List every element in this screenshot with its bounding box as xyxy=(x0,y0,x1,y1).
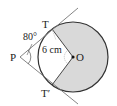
center-point-O xyxy=(71,55,74,58)
tangent-diagram: P T T′ O 80° 6 cm xyxy=(0,0,117,106)
angle-arc-O xyxy=(64,51,67,63)
label-angle: 80° xyxy=(23,31,37,42)
label-P: P xyxy=(10,51,16,63)
label-T-prime: T′ xyxy=(41,87,50,99)
label-O: O xyxy=(76,51,84,63)
angle-pointer xyxy=(27,44,32,55)
label-T: T xyxy=(42,18,49,30)
label-radius: 6 cm xyxy=(42,44,62,55)
